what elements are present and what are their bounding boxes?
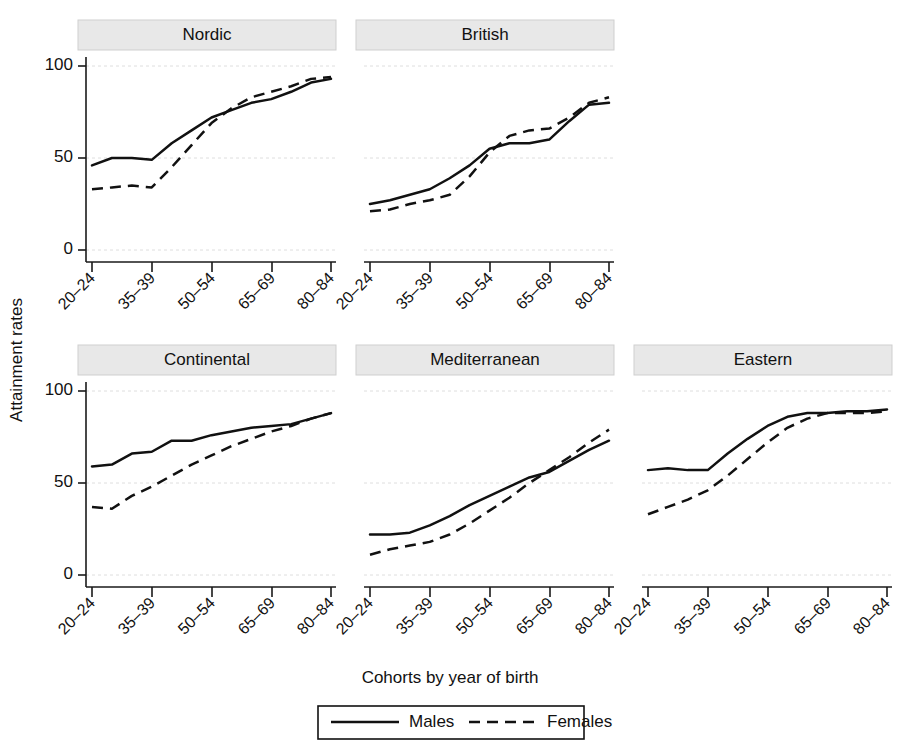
xtick-label-4: 80–84 — [850, 594, 894, 638]
panel-mediterranean-series-females — [370, 430, 609, 555]
ytick-label-0: 0 — [64, 239, 73, 258]
xtick-label-1: 35–39 — [671, 594, 715, 638]
panel-eastern-series-males — [648, 409, 887, 470]
panel-nordic-xticks — [92, 262, 331, 272]
xtick-label-3: 65–69 — [513, 594, 557, 638]
xtick-label-2: 50–54 — [453, 594, 497, 638]
panel-continental-series-females — [92, 413, 331, 509]
panel-british: British 20–24 35–39 50–54 65–69 80–84 — [333, 20, 616, 313]
xtick-label-3: 65–69 — [235, 269, 279, 313]
xtick-label-1: 35–39 — [115, 269, 159, 313]
x-axis-title: Cohorts by year of birth — [362, 668, 539, 687]
xtick-label-0: 20–24 — [55, 269, 99, 313]
xtick-label-0: 20–24 — [333, 594, 377, 638]
xtick-label-1: 35–39 — [393, 269, 437, 313]
panel-mediterranean-title: Mediterranean — [430, 350, 540, 369]
ytick-label-50: 50 — [54, 147, 73, 166]
xtick-label-2: 50–54 — [175, 594, 219, 638]
legend-label-females: Females — [547, 712, 612, 731]
xtick-label-4: 80–84 — [572, 269, 616, 313]
panel-eastern-title: Eastern — [734, 350, 793, 369]
x-axis-title-text: Cohorts by year of birth — [362, 668, 539, 687]
panel-continental-series-males — [92, 413, 331, 466]
ytick-label-0: 0 — [64, 564, 73, 583]
xtick-label-0: 20–24 — [611, 594, 655, 638]
chart-canvas: Attainment rates Cohorts by year of birt… — [0, 0, 901, 754]
panel-continental-title: Continental — [164, 350, 250, 369]
panel-eastern: Eastern 20–24 35–39 50–54 65–69 80–84 — [611, 345, 894, 638]
panel-nordic-series-females — [92, 77, 331, 189]
xtick-label-2: 50–54 — [731, 594, 775, 638]
panel-mediterranean: Mediterranean 20–24 35–39 50–54 65–69 80… — [333, 345, 616, 638]
xtick-label-4: 80–84 — [294, 594, 338, 638]
xtick-label-1: 35–39 — [115, 594, 159, 638]
panel-mediterranean-xtick-labels: 20–24 35–39 50–54 65–69 80–84 — [333, 594, 616, 638]
y-axis-title-text: Attainment rates — [7, 298, 26, 422]
xtick-label-3: 65–69 — [513, 269, 557, 313]
panel-nordic-title: Nordic — [182, 25, 232, 44]
panel-nordic-xtick-labels: 20–24 35–39 50–54 65–69 80–84 — [55, 269, 338, 313]
panel-continental-xtick-labels: 20–24 35–39 50–54 65–69 80–84 — [55, 594, 338, 638]
panel-eastern-xtick-labels: 20–24 35–39 50–54 65–69 80–84 — [611, 594, 894, 638]
ytick-label-50: 50 — [54, 472, 73, 491]
xtick-label-2: 50–54 — [453, 269, 497, 313]
xtick-label-2: 50–54 — [175, 269, 219, 313]
xtick-label-1: 35–39 — [393, 594, 437, 638]
xtick-label-0: 20–24 — [333, 269, 377, 313]
panel-nordic: Nordic 100 50 0 20–24 35–39 — [45, 20, 338, 313]
chart-figure: Attainment rates Cohorts by year of birt… — [0, 0, 901, 754]
panel-mediterranean-xticks — [370, 587, 609, 597]
panel-continental: Continental 100 50 0 20–24 35–39 — [45, 345, 338, 638]
panel-british-series-females — [370, 97, 609, 211]
panel-mediterranean-series-males — [370, 441, 609, 535]
panel-british-title: British — [461, 25, 508, 44]
ytick-label-100: 100 — [45, 380, 73, 399]
panel-continental-xticks — [92, 587, 331, 597]
legend-label-males: Males — [409, 712, 454, 731]
panel-british-xtick-labels: 20–24 35–39 50–54 65–69 80–84 — [333, 269, 616, 313]
xtick-label-3: 65–69 — [791, 594, 835, 638]
xtick-label-3: 65–69 — [235, 594, 279, 638]
xtick-label-0: 20–24 — [55, 594, 99, 638]
y-axis-title: Attainment rates — [7, 298, 26, 422]
panel-british-xticks — [370, 262, 609, 272]
xtick-label-4: 80–84 — [572, 594, 616, 638]
panel-british-series-males — [370, 103, 609, 204]
xtick-label-4: 80–84 — [294, 269, 338, 313]
chart-legend: Males Females — [318, 706, 612, 739]
ytick-label-100: 100 — [45, 55, 73, 74]
panel-eastern-xticks — [648, 587, 887, 597]
